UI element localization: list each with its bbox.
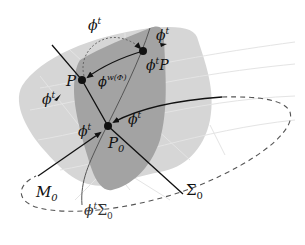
label-M0: M0: [35, 183, 58, 203]
manifold-flow-diagram: ϕt ϕt ϕtP P ϕw(Φ) ϕt ϕt ϕt P0 M0 Σ0 ϕtΣ0: [0, 0, 305, 245]
label-Sigma0: Σ0: [186, 181, 203, 201]
point-P: [78, 76, 86, 84]
label-phi-t-Sigma0: ϕtΣ0: [84, 201, 113, 221]
label-phi-t-top: ϕt: [88, 16, 102, 33]
label-P: P: [65, 72, 77, 90]
point-phiP: [139, 47, 147, 55]
point-P0: [104, 122, 112, 130]
